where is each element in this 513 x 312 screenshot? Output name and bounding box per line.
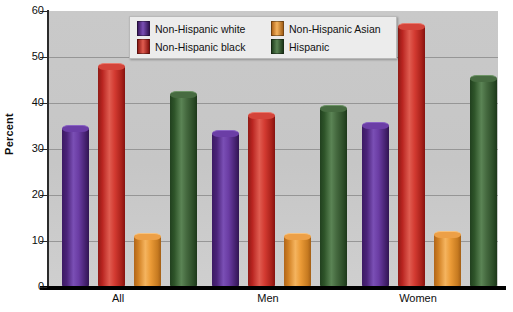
x-axis-line [40,286,506,290]
chart-legend: Non-Hispanic white Non-Hispanic Asian No… [129,16,397,59]
y-tick-label-20: 20 [6,189,44,200]
y-tick-label-50: 50 [6,51,44,62]
y-tick-label-60: 60 [6,5,44,16]
bar-men-non-hispanic-black [248,115,275,287]
bar-all-hispanic [170,94,197,287]
bar-women-non-hispanic-black [398,26,425,287]
bar-all-non-hispanic-black [98,66,125,287]
y-axis-title: Percent [3,102,15,166]
legend-swatch-icon-black [137,39,150,54]
y-axis-line [47,10,49,288]
bar-all-non-hispanic-asian [134,236,161,287]
bar-men-hispanic [320,108,347,287]
x-tick-label-all: All [58,292,178,304]
legend-item-non-hispanic-white: Non-Hispanic white [137,21,255,36]
bar-women-hispanic [470,78,497,287]
bar-chart: 60 50 40 30 20 10 0 Percent All Men Wome… [0,0,513,312]
bar-women-non-hispanic-white [362,125,389,287]
bar-men-non-hispanic-white [212,133,239,287]
bar-women-non-hispanic-asian [434,234,461,287]
legend-label-non-hispanic-black: Non-Hispanic black [155,41,245,53]
legend-item-non-hispanic-black: Non-Hispanic black [137,39,255,54]
bar-all-non-hispanic-white [62,128,89,287]
legend-item-hispanic: Hispanic [271,39,389,54]
bar-men-non-hispanic-asian [284,236,311,287]
legend-label-non-hispanic-asian: Non-Hispanic Asian [289,23,381,35]
legend-swatch-icon-asian [271,21,284,36]
legend-row-1: Non-Hispanic white Non-Hispanic Asian [137,21,389,36]
y-tick-label-0: 0 [6,281,44,292]
legend-swatch-icon-hispanic [271,39,284,54]
legend-row-2: Non-Hispanic black Hispanic [137,39,389,54]
y-tick-label-10: 10 [6,235,44,246]
x-tick-label-men: Men [208,292,328,304]
legend-label-non-hispanic-white: Non-Hispanic white [155,23,245,35]
x-tick-label-women: Women [358,292,478,304]
legend-label-hispanic: Hispanic [289,41,329,53]
legend-swatch-icon-white [137,21,150,36]
legend-item-non-hispanic-asian: Non-Hispanic Asian [271,21,389,36]
